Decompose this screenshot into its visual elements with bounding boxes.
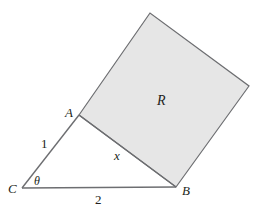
point-a-label: A <box>64 105 73 120</box>
point-b-label: B <box>182 183 190 198</box>
point-c-label: C <box>8 181 17 196</box>
side-ab-label: x <box>113 148 120 163</box>
region-r-label: R <box>156 93 166 108</box>
side-cb-label: 2 <box>95 192 102 207</box>
side-ca <box>22 115 79 188</box>
angle-theta-label: θ <box>34 174 40 188</box>
side-cb <box>22 187 176 188</box>
side-ca-label: 1 <box>41 136 48 151</box>
diagram: A B C R 1 2 x θ <box>0 0 258 209</box>
